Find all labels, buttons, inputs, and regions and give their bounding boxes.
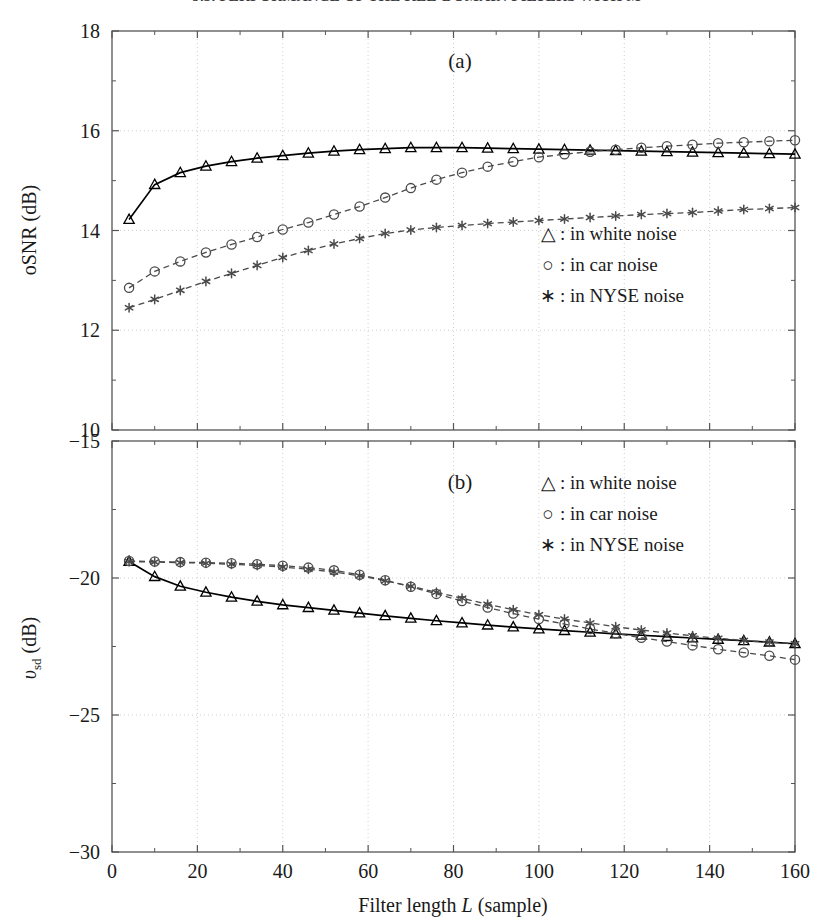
panel-a: 1012141618(a)oSNR (dB)△: in white noise○… <box>18 20 800 441</box>
series-star <box>125 557 798 648</box>
legend-symbol: △ <box>541 223 556 244</box>
legend-label: : in NYSE noise <box>560 534 684 555</box>
panel-a-label: (a) <box>448 49 471 73</box>
x-tick-label: 120 <box>609 860 639 882</box>
x-tick-label: 20 <box>187 860 207 882</box>
panel-b-ylabel: υsd (dB) <box>18 617 44 679</box>
legend-symbol: ○ <box>542 254 553 275</box>
x-tick-label: 140 <box>695 860 725 882</box>
legend-symbol: ∗ <box>540 285 556 306</box>
y-tick-label: −25 <box>69 704 100 726</box>
panel-b-label: (b) <box>448 470 473 494</box>
legend-symbol: ○ <box>542 503 553 524</box>
legend-label: : in white noise <box>560 472 677 493</box>
x-tick-label: 40 <box>273 860 293 882</box>
legend-label: : in white noise <box>560 223 677 244</box>
panel-a-legend: △: in white noise○: in car noise∗: in NY… <box>540 223 684 306</box>
series-circle <box>124 556 799 664</box>
y-tick-label: 18 <box>80 20 100 42</box>
legend-symbol: △ <box>541 472 556 493</box>
x-axis-title: Filter length L (sample) <box>358 894 547 917</box>
y-tick-label: 12 <box>80 319 100 341</box>
y-tick-label: 16 <box>80 120 100 142</box>
x-tick-label: 100 <box>524 860 554 882</box>
legend-label: : in car noise <box>560 254 658 275</box>
legend-label: : in NYSE noise <box>560 285 684 306</box>
series-circle <box>124 136 799 293</box>
x-tick-label: 160 <box>780 860 810 882</box>
y-tick-label: −15 <box>69 430 100 452</box>
x-tick-label: 80 <box>444 860 464 882</box>
legend-label: : in car noise <box>560 503 658 524</box>
legend-symbol: ∗ <box>540 534 556 555</box>
y-tick-label: −20 <box>69 567 100 589</box>
figure-container: 1012141618(a)oSNR (dB)△: in white noise○… <box>0 0 833 922</box>
y-tick-label: −30 <box>69 841 100 863</box>
figure-svg: 1012141618(a)oSNR (dB)△: in white noise○… <box>0 0 833 922</box>
x-tick-label: 0 <box>107 860 117 882</box>
series-triangle <box>124 142 800 223</box>
y-tick-label: 14 <box>80 220 100 242</box>
panel-a-ylabel: oSNR (dB) <box>18 185 41 276</box>
panel-b-legend: △: in white noise○: in car noise∗: in NY… <box>540 472 684 555</box>
x-axis-shared: 020406080100120140160Filter length L (sa… <box>107 860 810 917</box>
series-star <box>125 203 798 312</box>
figure-page: 9.5. PERFORMANCE OF THE KLE-DOMAIN FILTE… <box>0 0 833 922</box>
x-tick-label: 60 <box>358 860 378 882</box>
panel-b: −30−25−20−15(b)υsd (dB)△: in white noise… <box>18 430 800 863</box>
